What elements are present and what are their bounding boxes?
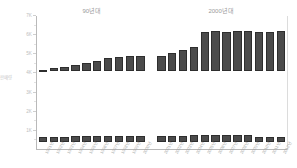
bar-upper[interactable] xyxy=(50,68,58,71)
x-axis-label-group: 1991년1992년1993년1994년1995년1996년1997년1998년… xyxy=(36,151,288,168)
bar-slot xyxy=(115,16,123,150)
bar-upper[interactable] xyxy=(233,31,241,71)
bar-slot xyxy=(266,16,274,150)
bar-upper[interactable] xyxy=(71,65,79,71)
bar-slot xyxy=(201,16,209,150)
bar-slot xyxy=(168,16,176,150)
bar-upper[interactable] xyxy=(222,32,230,71)
y-axis-tick-label: 1K xyxy=(0,126,36,136)
y-axis-tick-label: 3K xyxy=(0,88,36,98)
bar-upper[interactable] xyxy=(93,61,101,71)
bar-upper[interactable] xyxy=(266,32,274,71)
bar-upper[interactable] xyxy=(39,70,47,72)
bar-slot xyxy=(136,16,144,150)
bar-upper[interactable] xyxy=(255,32,263,71)
bar-slot xyxy=(233,16,241,150)
y-axis-tick-label: 4K xyxy=(0,68,36,78)
bar-upper[interactable] xyxy=(244,31,252,71)
bar-slot xyxy=(244,16,252,150)
bar-upper[interactable] xyxy=(126,56,134,71)
bar-chart: 판매량 7K6K5K4K3K2K1K 90년대2000년대 1991년1992년… xyxy=(0,0,297,168)
y-axis-tick-label: 2K xyxy=(0,107,36,117)
bar-upper[interactable] xyxy=(211,31,219,71)
group-header-label: 90년대 xyxy=(39,6,145,15)
bar-slot xyxy=(104,16,112,150)
bar-upper[interactable] xyxy=(190,47,198,71)
bar-slot xyxy=(179,16,187,150)
bar-slot xyxy=(50,16,58,150)
bar-upper[interactable] xyxy=(136,56,144,71)
bars-layer xyxy=(36,16,288,150)
bar-upper[interactable] xyxy=(179,50,187,71)
y-axis-tick-label: 5K xyxy=(0,49,36,59)
bar-upper[interactable] xyxy=(104,58,112,71)
bar-slot xyxy=(157,16,165,150)
bar-slot xyxy=(190,16,198,150)
bar-upper[interactable] xyxy=(60,67,68,71)
bar-slot xyxy=(222,16,230,150)
bar-upper[interactable] xyxy=(277,31,285,71)
bar-upper[interactable] xyxy=(115,57,123,71)
group-header-label: 2000년대 xyxy=(157,6,285,15)
bar-slot xyxy=(211,16,219,150)
bar-upper[interactable] xyxy=(157,56,165,71)
bar-slot xyxy=(277,16,285,150)
bar-slot xyxy=(255,16,263,150)
bar-lower[interactable] xyxy=(157,136,165,142)
bar-slot xyxy=(93,16,101,150)
bar-upper[interactable] xyxy=(201,32,209,71)
y-axis-tick-label: 7K xyxy=(0,11,36,21)
bar-slot xyxy=(82,16,90,150)
bar-slot xyxy=(60,16,68,150)
bar-lower[interactable] xyxy=(39,137,47,142)
bar-slot xyxy=(126,16,134,150)
bar-slot xyxy=(39,16,47,150)
bar-slot xyxy=(71,16,79,150)
bar-upper[interactable] xyxy=(168,53,176,71)
bar-upper[interactable] xyxy=(82,63,90,71)
y-axis-tick-label: 6K xyxy=(0,30,36,40)
